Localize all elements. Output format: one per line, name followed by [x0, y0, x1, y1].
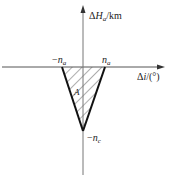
neg-nc-label: −nc [87, 132, 102, 145]
y-axis-arrow-icon [81, 5, 86, 13]
region-a-label: A [73, 87, 80, 97]
x-axis-arrow-icon [157, 65, 165, 70]
pos-na-label: na [102, 54, 111, 67]
x-axis-label: Δi/(°) [137, 71, 160, 83]
y-axis-label: ΔHa/km [89, 10, 122, 23]
diagram-canvas: ΔHa/km Δi/(°) −na na −nc A [0, 0, 176, 176]
neg-na-label: −na [52, 54, 67, 67]
